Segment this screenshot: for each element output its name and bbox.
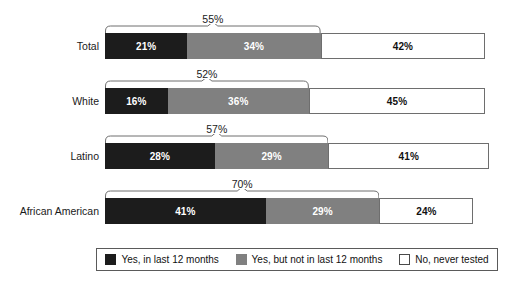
bar-segment-yes-recent: 41% xyxy=(105,198,266,224)
segment-value-label: 29% xyxy=(261,151,281,162)
chart-row: Latino57%28%29%41% xyxy=(0,110,516,165)
stacked-bar: 41%29%24% xyxy=(105,198,473,224)
segment-value-label: 24% xyxy=(416,206,436,217)
chart-row: Total55%21%34%42% xyxy=(0,0,516,55)
segment-value-label: 28% xyxy=(150,151,170,162)
segment-value-label: 36% xyxy=(228,96,248,107)
bracket-value-label: 52% xyxy=(196,68,217,80)
legend-label: No, never tested xyxy=(415,254,488,265)
segment-value-label: 34% xyxy=(244,41,264,52)
category-label: Total xyxy=(0,40,99,52)
segment-value-label: 16% xyxy=(126,96,146,107)
segment-value-label: 29% xyxy=(312,206,332,217)
legend-swatch-white-icon xyxy=(399,254,410,265)
legend-item: No, never tested xyxy=(399,254,488,265)
legend-swatch-gray-icon xyxy=(236,254,247,265)
stacked-bar-chart: Total55%21%34%42%White52%16%36%45%Latino… xyxy=(0,0,516,281)
category-label: African American xyxy=(0,205,99,217)
legend-label: Yes, but not in last 12 months xyxy=(252,254,383,265)
segment-value-label: 41% xyxy=(399,151,419,162)
legend-item: Yes, but not in last 12 months xyxy=(236,254,383,265)
legend-label: Yes, in last 12 months xyxy=(121,254,218,265)
segment-value-label: 41% xyxy=(175,206,195,217)
legend-swatch-black-icon xyxy=(105,254,116,265)
chart-row: White52%16%36%45% xyxy=(0,55,516,110)
segment-value-label: 21% xyxy=(136,41,156,52)
bracket-value-label: 57% xyxy=(206,123,227,135)
bracket-value-label: 70% xyxy=(232,178,253,190)
bar-segment-never: 24% xyxy=(379,198,473,224)
segment-value-label: 45% xyxy=(387,96,407,107)
legend-item: Yes, in last 12 months xyxy=(105,254,218,265)
category-label: White xyxy=(0,95,99,107)
chart-row: African American70%41%29%24% xyxy=(0,165,516,220)
bar-segment-yes-older: 29% xyxy=(266,198,380,224)
bracket-value-label: 55% xyxy=(202,13,223,25)
category-label: Latino xyxy=(0,150,99,162)
chart-legend: Yes, in last 12 monthsYes, but not in la… xyxy=(96,248,498,271)
segment-value-label: 42% xyxy=(393,41,413,52)
